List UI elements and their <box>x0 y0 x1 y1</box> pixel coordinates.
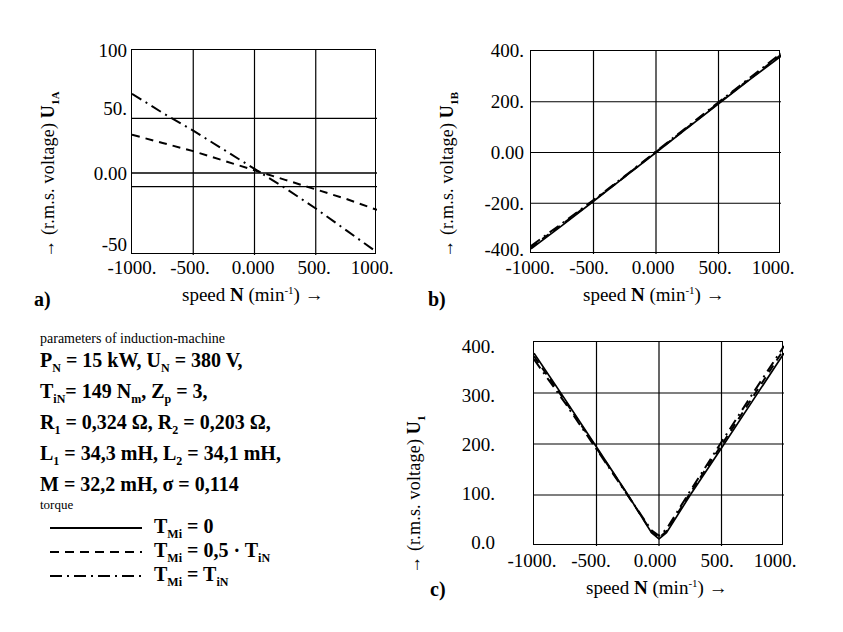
panel-a-xtick-1: -500. <box>157 258 223 277</box>
panel-a-ytick-2: 0.00 <box>70 164 127 183</box>
panel-c-xtick-3: 500. <box>687 551 747 570</box>
panel-b-y-axis-label-text: → (r.m.s. voltage) U1B <box>437 92 457 258</box>
legend-item: TMi = 0,5 · TiN <box>40 540 370 564</box>
panel-c-x-axis-label: speed N (min-1) → <box>586 577 728 599</box>
panel-b-curves <box>531 51 781 254</box>
panel-b-ytick-1: 200. <box>466 92 524 111</box>
parameter-line: TiN= 149 Nm, Zp = 3, <box>40 380 370 411</box>
parameters-title: parameters of induction-machine <box>40 330 370 347</box>
legend-item-label: TMi = 0,5 · TiN <box>154 539 270 566</box>
panel-c-ytick-4: 0.0 <box>437 533 495 552</box>
panel-c-ytick-2: 200. <box>437 435 495 454</box>
panel-a-xtick-3: 500. <box>284 258 344 277</box>
panel-b-ytick-2: 0.00 <box>466 143 524 162</box>
panel-b-ytick-3: -200. <box>459 194 524 213</box>
parameter-line: M = 32,2 mH, σ = 0,114 <box>40 473 370 496</box>
panel-c-id: c) <box>430 578 446 601</box>
panel-c-y-axis-label: → (r.m.s. voltage) U1 <box>404 415 427 574</box>
panel-c-xtick-1: -500. <box>558 551 624 570</box>
legend-item-label: TMi = 0 <box>154 515 213 542</box>
panel-a-x-axis-label-text: speed N (min-1) → <box>182 284 324 305</box>
panel-b-xtick-1: -500. <box>556 258 622 277</box>
legend-item: TMi = 0 <box>40 516 370 540</box>
panel-c-xtick-2: 0.000 <box>619 551 691 570</box>
panel-a-y-axis-label: → (r.m.s. voltage) U1A <box>38 91 61 258</box>
panel-c-ytick-1: 300. <box>437 386 495 405</box>
panel-c-xtick-4: 1000. <box>740 551 810 570</box>
panel-b-xtick-2: 0.000 <box>617 258 689 277</box>
panel-c-ytick-3: 100. <box>437 484 495 503</box>
panel-a-xtick-4: 1000. <box>337 258 407 277</box>
panel-b-x-axis-label: speed N (min-1) → <box>583 284 725 306</box>
figure-root: → (r.m.s. voltage) U1A 100 50. 0.00 -50 … <box>0 0 843 632</box>
panel-a-y-axis-label-text: → (r.m.s. voltage) U1A <box>38 91 58 258</box>
panel-a-id: a) <box>34 288 51 311</box>
parameter-line: PN = 15 kW, UN = 380 V, <box>40 349 370 380</box>
legend-title: torque <box>40 497 370 513</box>
parameters-list: PN = 15 kW, UN = 380 V,TiN= 149 Nm, Zp =… <box>40 349 370 496</box>
legend-item-label: TMi = TiN <box>154 563 228 590</box>
parameters-block: parameters of induction-machine PN = 15 … <box>40 330 370 588</box>
panel-b-x-axis-label-text: speed N (min-1) → <box>583 284 725 305</box>
panel-a-x-axis-label: speed N (min-1) → <box>182 284 324 306</box>
legend: TMi = 0TMi = 0,5 · TiNTMi = TiN <box>40 516 370 588</box>
legend-item: TMi = TiN <box>40 564 370 588</box>
legend-line-sample-dashdot-icon <box>50 570 142 582</box>
legend-line-sample-dashed-icon <box>50 546 142 558</box>
panel-b-xtick-3: 500. <box>685 258 745 277</box>
panel-c-x-axis-label-text: speed N (min-1) → <box>586 577 728 598</box>
parameter-line: L1 = 34,3 mH, L2 = 34,1 mH, <box>40 442 370 473</box>
panel-c-ytick-0: 400. <box>437 337 495 356</box>
panel-b-xtick-4: 1000. <box>738 258 808 277</box>
panel-c-curves <box>534 342 784 546</box>
panel-a-xtick-2: 0.000 <box>217 258 289 277</box>
panel-b-plot-area <box>530 50 780 253</box>
panel-a-ytick-1: 50. <box>75 99 127 118</box>
panel-b-id: b) <box>428 288 446 311</box>
panel-b-y-axis-label: → (r.m.s. voltage) U1B <box>437 92 460 258</box>
panel-a-ytick-0: 100 <box>75 41 127 60</box>
panel-c-plot-area <box>533 341 783 545</box>
panel-b-ytick-0: 400. <box>466 41 524 60</box>
parameter-line: R1 = 0,324 Ω, R2 = 0,203 Ω, <box>40 411 370 442</box>
legend-line-sample-solid-icon <box>50 522 142 534</box>
panel-a-ytick-3: -50 <box>75 235 127 254</box>
panel-a-curves <box>132 50 377 255</box>
panel-c-y-axis-label-text: → (r.m.s. voltage) U1 <box>404 415 424 574</box>
panel-a-plot-area <box>131 49 376 254</box>
